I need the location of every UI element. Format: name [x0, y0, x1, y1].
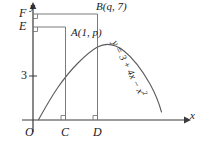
right-angle-mark-F [33, 14, 38, 19]
x-axis [22, 117, 191, 124]
point-label-B: B(q, 7) [96, 1, 127, 12]
point-label-C: C [61, 126, 69, 138]
y-axis-label: y [30, 1, 35, 12]
right-angle-mark-C [61, 116, 66, 121]
x-axis-label: x [190, 110, 195, 121]
point-label-F: F [19, 7, 26, 19]
parabola-curve [39, 44, 162, 119]
parabola-figure: y x O C D E F 3 A(1, p) B(q, 7) y = 3 + … [0, 0, 205, 150]
y-axis [30, 2, 37, 132]
y-intercept-label: 3 [21, 69, 27, 81]
right-angle-mark-E [33, 27, 38, 32]
right-angle-mark-D [93, 116, 98, 121]
origin-label: O [25, 126, 34, 138]
point-label-A: A(1, p) [71, 27, 102, 38]
point-label-E: E [19, 20, 26, 32]
point-label-D: D [93, 126, 102, 138]
